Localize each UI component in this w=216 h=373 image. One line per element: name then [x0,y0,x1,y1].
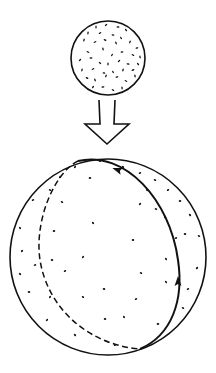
expansion-diagram [0,0,216,373]
point-dot [138,202,141,205]
point-dot [135,47,138,49]
point-dot [78,58,81,61]
point-dot [28,291,31,293]
point-dot [132,239,135,241]
point-dot [186,288,189,291]
point-dot [85,77,88,79]
point-dot [103,39,106,41]
point-dot [112,70,115,73]
point-dot [157,323,160,325]
point-dot [166,189,169,192]
point-dot [134,74,136,77]
small-sphere [71,21,145,95]
point-dot [49,295,52,298]
point-dot [107,62,108,65]
point-dot [86,51,89,54]
point-dot [98,32,101,35]
point-dot [105,74,108,77]
point-dot [81,296,84,299]
point-dot [19,226,22,229]
point-dot [63,270,66,273]
point-dot [139,272,142,275]
point-dot [117,59,120,62]
down-arrow-icon [85,100,129,144]
point-dot [124,80,127,83]
great-circle-path [39,159,182,349]
point-dot [131,69,134,72]
point-dot [120,51,123,53]
point-dot [95,26,96,29]
small-sphere-outline [71,21,145,95]
arrow-outline [85,100,129,144]
point-dot [48,189,51,192]
point-dot [121,86,123,89]
point-dot [184,233,187,235]
point-dot [137,62,140,65]
point-dot [98,61,101,64]
point-dot [126,63,129,65]
point-dot [91,68,94,71]
point-dot [89,57,92,59]
point-dot [164,280,167,283]
point-dot [134,298,137,301]
point-dot [102,47,104,50]
point-dot [115,76,118,78]
point-dot [101,86,104,88]
point-dot [115,41,117,44]
point-dot [94,78,96,81]
point-dot [125,28,128,31]
point-dot [123,315,126,318]
point-dot [83,38,85,41]
great-circle-back-dashed [39,161,140,349]
point-dot [164,257,167,260]
point-dot [92,85,95,88]
point-dot [111,53,114,56]
point-dot [116,26,119,28]
point-dot [139,55,141,58]
point-dot [153,179,156,182]
point-dot [197,235,200,238]
point-dot [60,201,63,204]
diagram-canvas [0,0,216,373]
point-dot [53,230,56,232]
point-dot [81,68,83,71]
point-dot [111,89,114,92]
point-dot [111,34,114,36]
point-dot [18,272,21,275]
point-dot [155,208,158,210]
point-dot [181,307,184,310]
point-dot [87,31,89,34]
point-dot [45,318,48,321]
point-dot [34,264,37,266]
point-dot [31,199,34,202]
point-dot [120,36,123,39]
point-dot [195,266,198,269]
point-dot [122,68,124,71]
point-dot [174,237,177,240]
point-dot [104,318,107,320]
point-dot [103,288,106,290]
point-dot [91,221,94,224]
point-dot [138,172,141,175]
point-dot [129,40,131,43]
point-dot [104,23,107,26]
great-circle-front-solid [78,159,179,349]
point-dot [93,41,96,44]
point-dot [20,249,23,252]
point-dot [51,259,54,261]
point-dot [73,333,76,336]
point-dot [89,177,92,179]
point-dot [179,200,182,202]
point-dot [188,213,191,216]
point-dot [102,72,105,74]
point-dot [82,255,85,258]
point-dot [131,54,134,57]
